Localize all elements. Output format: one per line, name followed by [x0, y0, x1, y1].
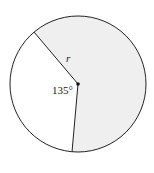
center-point — [76, 82, 80, 86]
shaded-sector — [34, 16, 146, 152]
angle-label: 135° — [52, 84, 73, 96]
circle-diagram: r 135° — [0, 0, 154, 173]
radius-label: r — [66, 52, 71, 64]
